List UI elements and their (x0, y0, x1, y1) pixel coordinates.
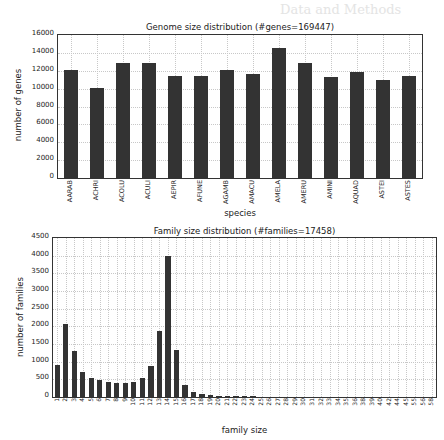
gridline-vertical (330, 238, 331, 397)
x-tick-label: 14 (163, 398, 170, 406)
y-axis-label: number of families (15, 267, 25, 367)
gridline-vertical (381, 238, 382, 397)
plot-area (52, 237, 437, 398)
x-tick-label: 12 (146, 398, 153, 406)
gridline-vertical (415, 238, 416, 397)
gridline-vertical (125, 238, 126, 397)
x-tick-label: 29 (291, 398, 298, 406)
gridline-vertical (389, 238, 390, 397)
x-tick-label: 26 (265, 398, 272, 406)
gridline-vertical (91, 238, 92, 397)
bar (89, 378, 94, 397)
bar (140, 378, 145, 397)
y-tick-label: 4500 (9, 232, 49, 240)
x-tick-label: 36 (351, 398, 358, 406)
gridline-vertical (364, 238, 365, 397)
x-tick-label: 34 (334, 398, 341, 406)
x-tick-label: 25 (257, 398, 264, 406)
gridline-vertical (219, 238, 220, 397)
gridline-vertical (372, 238, 373, 397)
bar (182, 385, 187, 397)
bar (174, 350, 179, 397)
y-tick-label: 4000 (9, 250, 49, 258)
bar (114, 383, 119, 397)
chart-title: Family size distribution (#families=1745… (52, 226, 437, 236)
y-tick-label: 1500 (9, 338, 49, 346)
x-tick-label: 24 (248, 398, 255, 406)
x-tick-label: 30 (299, 398, 306, 406)
x-tick-label: 1 (53, 398, 60, 402)
gridline-vertical (287, 238, 288, 397)
gridline-vertical (193, 238, 194, 397)
x-tick-label: 15 (172, 398, 179, 406)
x-tick-label: 5 (87, 398, 94, 402)
bar (148, 366, 153, 397)
y-tick-label: 3500 (9, 267, 49, 275)
bar (55, 365, 60, 397)
x-tick-label: 45 (402, 398, 409, 406)
x-tick-label: 27 (274, 398, 281, 406)
gridline-vertical (108, 238, 109, 397)
x-tick-label: 9 (121, 398, 128, 402)
x-tick-label: 38 (359, 398, 366, 406)
x-axis-label: family size (52, 425, 437, 435)
gridline-vertical (423, 238, 424, 397)
gridline-vertical (134, 238, 135, 397)
x-tick-label: 21 (223, 398, 230, 406)
y-tick-label: 0 (9, 391, 49, 399)
family-size-chart: Family size distribution (#families=1745… (0, 0, 444, 440)
x-tick-label: 55 (410, 398, 417, 406)
x-tick-label: 3 (70, 398, 77, 402)
x-tick-label: 23 (240, 398, 247, 406)
x-tick-label: 39 (368, 398, 375, 406)
gridline-vertical (142, 238, 143, 397)
x-tick-label: 10 (129, 398, 136, 406)
gridline-vertical (100, 238, 101, 397)
gridline-vertical (245, 238, 246, 397)
gridline-vertical (117, 238, 118, 397)
x-tick-label: 31 (308, 398, 315, 406)
x-tick-label: 20 (214, 398, 221, 406)
gridline-vertical (270, 238, 271, 397)
gridline-vertical (236, 238, 237, 397)
y-tick-label: 3000 (9, 285, 49, 293)
x-tick-label: 16 (180, 398, 187, 406)
y-tick-label: 2000 (9, 320, 49, 328)
x-tick-label: 42 (385, 398, 392, 406)
bar (157, 331, 162, 397)
gridline-vertical (253, 238, 254, 397)
x-tick-label: 44 (393, 398, 400, 406)
x-tick-label: 33 (325, 398, 332, 406)
bar (191, 392, 196, 397)
bar (80, 372, 85, 397)
x-tick-label: 8 (112, 398, 119, 402)
gridline-vertical (296, 238, 297, 397)
gridline-vertical (347, 238, 348, 397)
gridline-vertical (338, 238, 339, 397)
x-tick-label: 13 (155, 398, 162, 406)
gridline-vertical (262, 238, 263, 397)
x-tick-label: 4 (78, 398, 85, 402)
gridline-vertical (313, 238, 314, 397)
bar (123, 383, 128, 397)
x-tick-label: 17 (189, 398, 196, 406)
gridline-vertical (432, 238, 433, 397)
x-tick-label: 58 (427, 398, 434, 406)
bar (165, 256, 170, 397)
x-tick-label: 35 (342, 398, 349, 406)
y-tick-label: 500 (9, 373, 49, 381)
x-tick-label: 32 (317, 398, 324, 406)
x-tick-label: 11 (138, 398, 145, 406)
x-tick-label: 2 (61, 398, 68, 402)
bar (72, 351, 77, 397)
gridline-vertical (304, 238, 305, 397)
bar (199, 394, 204, 397)
x-tick-label: 22 (231, 398, 238, 406)
gridline-vertical (279, 238, 280, 397)
x-tick-label: 56 (419, 398, 426, 406)
gridline-vertical (355, 238, 356, 397)
y-tick-label: 2500 (9, 303, 49, 311)
bar (106, 382, 111, 397)
gridline-vertical (202, 238, 203, 397)
x-tick-label: 28 (282, 398, 289, 406)
